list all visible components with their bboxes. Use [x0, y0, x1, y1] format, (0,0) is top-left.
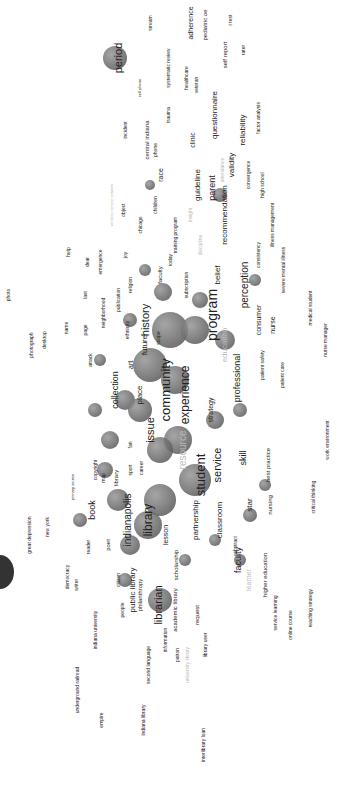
term-label[interactable]: photo: [6, 289, 11, 302]
term-label[interactable]: recommendation: [221, 185, 229, 245]
term-label[interactable]: library: [113, 470, 119, 486]
term-label[interactable]: interlibrary loan: [201, 728, 206, 762]
term-label[interactable]: clinic: [189, 132, 196, 148]
term-label[interactable]: questionnaire: [211, 91, 219, 139]
term-label[interactable]: learner: [245, 569, 252, 591]
term-label[interactable]: help: [66, 247, 71, 256]
term-label[interactable]: nurse: [269, 316, 276, 334]
term-label[interactable]: democracy: [65, 565, 70, 589]
term-label[interactable]: systematic review: [166, 48, 171, 87]
term-label[interactable]: adherence: [187, 6, 194, 39]
term-label[interactable]: phone: [153, 143, 158, 157]
term-label[interactable]: medical student: [308, 290, 313, 325]
term-label[interactable]: photograph: [29, 332, 34, 357]
term-label[interactable]: academic library: [172, 588, 178, 632]
term-label[interactable]: citizen: [116, 573, 121, 587]
term-label[interactable]: public library: [129, 568, 137, 613]
term-label[interactable]: philanthropy: [137, 579, 143, 612]
term-label[interactable]: training program: [173, 217, 178, 253]
term-label[interactable]: patient care: [280, 362, 285, 388]
term-label[interactable]: indiana library: [141, 704, 146, 735]
term-label[interactable]: online course: [288, 610, 293, 640]
term-label[interactable]: race: [157, 168, 164, 182]
term-label[interactable]: self report: [222, 42, 228, 69]
term-bubble[interactable]: [88, 403, 102, 417]
term-label[interactable]: request: [194, 605, 200, 625]
term-label[interactable]: rater: [241, 45, 246, 55]
term-label[interactable]: university library: [185, 647, 190, 683]
term-label[interactable]: consumer: [255, 305, 262, 336]
term-label[interactable]: book: [88, 500, 97, 520]
term-label[interactable]: indianapolis: [123, 494, 133, 547]
term-label[interactable]: critical thinking: [311, 481, 316, 514]
term-label[interactable]: partnership: [192, 500, 200, 540]
term-label[interactable]: patient safety: [260, 350, 265, 380]
term-label[interactable]: future: [141, 335, 149, 355]
term-label[interactable]: high school: [260, 172, 265, 197]
term-label[interactable]: consistency: [256, 242, 261, 268]
term-label[interactable]: work environment: [325, 420, 330, 459]
term-label[interactable]: community: [159, 359, 172, 422]
term-label[interactable]: lesson: [162, 525, 169, 545]
term-label[interactable]: central indiana: [144, 120, 150, 159]
term-bubble[interactable]: [101, 431, 119, 449]
term-label[interactable]: higher education: [262, 553, 268, 597]
term-label[interactable]: today: [168, 254, 173, 266]
term-bubble[interactable]: [249, 274, 261, 286]
term-label[interactable]: people: [120, 602, 125, 617]
term-label[interactable]: patron: [175, 648, 180, 662]
term-label[interactable]: reliability: [239, 114, 247, 145]
term-label[interactable]: best practice: [265, 448, 271, 482]
term-label[interactable]: art: [127, 361, 134, 369]
term-label[interactable]: student: [194, 454, 207, 497]
term-label[interactable]: page: [83, 324, 88, 335]
term-label[interactable]: insight: [188, 208, 193, 222]
term-label[interactable]: issue: [145, 417, 156, 443]
term-label[interactable]: resource: [178, 431, 188, 470]
term-bubble[interactable]: [233, 403, 247, 417]
term-label[interactable]: great depression: [27, 516, 32, 553]
term-label[interactable]: library user: [203, 633, 208, 658]
term-label[interactable]: faculty: [157, 266, 163, 283]
term-label[interactable]: primary source: [71, 474, 75, 500]
term-label[interactable]: scholarship: [173, 550, 179, 580]
term-label[interactable]: place: [136, 385, 144, 404]
term-label[interactable]: children: [153, 196, 158, 214]
term-label[interactable]: religion: [128, 277, 133, 293]
term-label[interactable]: scope: [156, 331, 161, 344]
term-label[interactable]: new york: [45, 517, 50, 537]
term-label[interactable]: severe mental illness: [281, 247, 286, 294]
term-label[interactable]: discipline: [198, 235, 203, 256]
term-bubble[interactable]: [154, 283, 172, 301]
term-label[interactable]: attack: [88, 353, 93, 366]
term-label[interactable]: experience: [179, 366, 191, 425]
term-bubble[interactable]: [179, 554, 191, 566]
term-label[interactable]: emergence: [98, 249, 103, 274]
term-label[interactable]: program: [205, 289, 219, 341]
term-label[interactable]: healthcare: [184, 66, 189, 89]
term-label[interactable]: sport: [128, 464, 133, 475]
term-label[interactable]: joy: [123, 252, 128, 258]
term-label[interactable]: object: [121, 203, 126, 216]
term-label[interactable]: veteran: [194, 77, 199, 94]
term-label[interactable]: ethnicity: [125, 321, 130, 339]
term-label[interactable]: librarian: [153, 585, 164, 624]
term-bubble[interactable]: [73, 513, 87, 527]
term-label[interactable]: cell phone: [138, 79, 142, 97]
term-label[interactable]: career: [139, 461, 144, 475]
term-label[interactable]: faculty: [234, 547, 243, 573]
term-label[interactable]: validity: [228, 153, 236, 177]
term-bubble[interactable]: [139, 264, 151, 276]
term-bubble[interactable]: [145, 180, 155, 190]
term-label[interactable]: incident: [123, 121, 128, 138]
term-label[interactable]: copyright: [93, 460, 98, 480]
term-label[interactable]: last: [83, 291, 88, 299]
term-label[interactable]: history: [140, 304, 151, 336]
term-label[interactable]: skill: [239, 451, 248, 466]
term-label[interactable]: strategy: [207, 398, 214, 423]
term-label[interactable]: pediatric oe: [202, 9, 208, 40]
term-label[interactable]: nursing: [267, 495, 273, 515]
term-label[interactable]: illness management: [270, 203, 275, 247]
term-label[interactable]: guideline: [194, 169, 202, 201]
term-label[interactable]: map: [101, 473, 106, 483]
